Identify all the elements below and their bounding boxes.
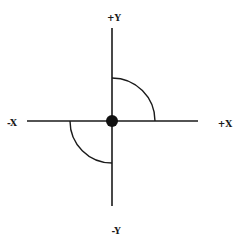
neg-y-label: -Y — [111, 226, 121, 236]
lower-left-arc — [70, 121, 112, 163]
origin-dot — [106, 115, 118, 127]
coordinate-diagram: +Y -Y -X +X — [0, 0, 241, 245]
neg-x-label: -X — [7, 118, 17, 128]
pos-y-label: +Y — [107, 13, 122, 23]
upper-right-arc — [112, 78, 155, 121]
pos-x-label: +X — [218, 119, 233, 129]
